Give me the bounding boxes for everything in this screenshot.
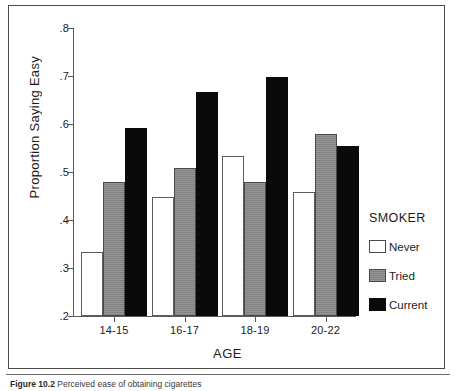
legend-label-never: Never — [389, 241, 420, 253]
bar-14-15-tried — [103, 182, 125, 316]
bar-16-17-tried — [174, 168, 196, 316]
x-axis-tick — [114, 317, 115, 322]
x-axis-title: AGE — [9, 346, 446, 361]
figure-caption-text: Perceived ease of obtaining cigarettes — [57, 379, 201, 389]
bar-16-17-never — [152, 197, 174, 316]
x-axis-tick-label: 14-15 — [99, 324, 128, 336]
legend-item-current[interactable]: Current — [369, 298, 447, 311]
plot-area: .8.7.6.5.4.3.2 14-1516-1718-1920-22 — [73, 28, 355, 316]
bar-16-17-current — [196, 92, 218, 316]
x-axis-tick-label: 20-22 — [311, 324, 340, 336]
y-axis-title: Proportion Saying Easy — [27, 56, 43, 198]
figure-frame: Proportion Saying Easy .8.7.6.5.4.3.2 14… — [8, 5, 445, 369]
figure-caption: Figure 10.2 Perceived ease of obtaining … — [10, 379, 440, 389]
x-axis-tick-label: 18-19 — [240, 324, 269, 336]
y-axis-tick-label: .6 — [59, 118, 69, 130]
legend-item-tried[interactable]: Tried — [369, 269, 447, 282]
y-axis-tick-label: .3 — [59, 262, 69, 274]
bar-18-19-current — [266, 77, 288, 316]
caption-divider — [6, 374, 450, 375]
bar-20-22-never — [293, 192, 315, 316]
legend: SMOKER NeverTriedCurrent — [369, 211, 447, 327]
y-axis-tick-label: .5 — [59, 166, 69, 178]
x-axis-tick — [255, 317, 256, 322]
legend-label-current: Current — [389, 299, 427, 311]
y-axis-tick-label: .8 — [59, 22, 69, 34]
legend-swatch-tried — [369, 269, 386, 282]
x-axis-line — [73, 316, 356, 317]
bar-20-22-current — [337, 146, 359, 316]
bar-18-19-tried — [244, 182, 266, 316]
y-axis-line — [73, 28, 74, 317]
y-axis-tick-label: .4 — [59, 214, 69, 226]
legend-title: SMOKER — [369, 211, 447, 225]
x-axis-tick — [326, 317, 327, 322]
y-axis-tick-label: .2 — [59, 310, 69, 322]
legend-swatch-current — [369, 298, 386, 311]
x-axis-tick — [185, 317, 186, 322]
legend-swatch-never — [369, 240, 386, 253]
legend-label-tried: Tried — [389, 270, 415, 282]
legend-items: NeverTriedCurrent — [369, 240, 447, 311]
y-axis-tick-label: .7 — [59, 70, 69, 82]
bar-14-15-never — [81, 252, 103, 316]
bar-14-15-current — [125, 128, 147, 316]
bar-18-19-never — [222, 156, 244, 316]
legend-item-never[interactable]: Never — [369, 240, 447, 253]
x-axis-tick-label: 16-17 — [170, 324, 199, 336]
figure-caption-number: Figure 10.2 — [10, 379, 55, 389]
bar-20-22-tried — [315, 134, 337, 316]
